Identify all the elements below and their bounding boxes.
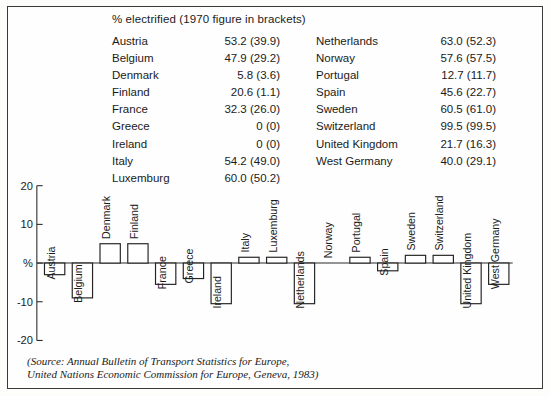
country-name: Austria bbox=[112, 33, 196, 50]
country-value: 60.0 (50.2) bbox=[196, 170, 280, 187]
table-row: Switzerland99.5 (99.5) bbox=[316, 118, 496, 135]
country-value: 5.8 (3.6) bbox=[196, 67, 280, 84]
country-name: United Kingdom bbox=[316, 136, 414, 153]
country-value: 12.7 (11.7) bbox=[414, 67, 496, 84]
table-row: Belgium47.9 (29.2) bbox=[112, 50, 280, 67]
country-name: West Germany bbox=[316, 153, 414, 170]
country-name: Sweden bbox=[316, 101, 414, 118]
table-row: Netherlands63.0 (52.3) bbox=[316, 33, 496, 50]
table-row: Sweden60.5 (61.0) bbox=[316, 101, 496, 118]
country-name: Italy bbox=[112, 153, 196, 170]
country-name: Switzerland bbox=[316, 118, 414, 135]
figure-caption: % electrified (1970 figure in brackets) bbox=[112, 13, 306, 25]
table-row: Italy54.2 (49.0) bbox=[112, 153, 280, 170]
country-value: 20.6 (1.1) bbox=[196, 84, 280, 101]
country-name: Denmark bbox=[112, 67, 196, 84]
table-row: France32.3 (26.0) bbox=[112, 101, 280, 118]
country-name: Greece bbox=[112, 118, 196, 135]
table-row: Finland20.6 (1.1) bbox=[112, 84, 280, 101]
source-citation-line-2: United Nations Economic Commission for E… bbox=[27, 368, 318, 380]
table-row: Portugal12.7 (11.7) bbox=[316, 67, 496, 84]
source-citation-line-1: (Source: Annual Bulletin of Transport St… bbox=[27, 355, 289, 367]
country-name: Ireland bbox=[112, 136, 196, 153]
table-row: Denmark5.8 (3.6) bbox=[112, 67, 280, 84]
country-value: 54.2 (49.0) bbox=[196, 153, 280, 170]
country-value: 53.2 (39.9) bbox=[196, 33, 280, 50]
country-name: Portugal bbox=[316, 67, 414, 84]
country-value: 40.0 (29.1) bbox=[414, 153, 496, 170]
figure-page: % electrified (1970 figure in brackets) … bbox=[0, 0, 550, 396]
data-table-left-column: Austria53.2 (39.9) Belgium47.9 (29.2) De… bbox=[112, 33, 280, 187]
table-row: Ireland0 (0) bbox=[112, 136, 280, 153]
table-row: Spain45.6 (22.7) bbox=[316, 84, 496, 101]
country-value: 99.5 (99.5) bbox=[414, 118, 496, 135]
country-value: 32.3 (26.0) bbox=[196, 101, 280, 118]
country-name: Spain bbox=[316, 84, 414, 101]
table-row: Norway57.6 (57.5) bbox=[316, 50, 496, 67]
table-row: Greece0 (0) bbox=[112, 118, 280, 135]
country-value: 21.7 (16.3) bbox=[414, 136, 496, 153]
country-name: Norway bbox=[316, 50, 414, 67]
table-row: Luxemburg60.0 (50.2) bbox=[112, 170, 280, 187]
country-value: 63.0 (52.3) bbox=[414, 33, 496, 50]
data-table-right-column: Netherlands63.0 (52.3) Norway57.6 (57.5)… bbox=[316, 33, 496, 170]
country-value: 0 (0) bbox=[196, 118, 280, 135]
country-value: 0 (0) bbox=[196, 136, 280, 153]
country-value: 57.6 (57.5) bbox=[414, 50, 496, 67]
country-name: Luxemburg bbox=[112, 170, 196, 187]
country-value: 47.9 (29.2) bbox=[196, 50, 280, 67]
country-value: 45.6 (22.7) bbox=[414, 84, 496, 101]
table-row: United Kingdom21.7 (16.3) bbox=[316, 136, 496, 153]
country-value: 60.5 (61.0) bbox=[414, 101, 496, 118]
country-name: France bbox=[112, 101, 196, 118]
country-name: Netherlands bbox=[316, 33, 414, 50]
table-row: Austria53.2 (39.9) bbox=[112, 33, 280, 50]
country-name: Finland bbox=[112, 84, 196, 101]
table-row: West Germany40.0 (29.1) bbox=[316, 153, 496, 170]
country-name: Belgium bbox=[112, 50, 196, 67]
